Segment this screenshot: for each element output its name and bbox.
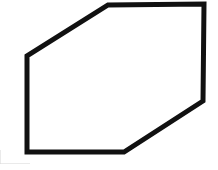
figure-canvas (0, 0, 218, 170)
hexagon-figure (0, 0, 218, 170)
scan-artifact-left (0, 150, 1, 164)
scan-artifact-bottom (0, 163, 30, 164)
